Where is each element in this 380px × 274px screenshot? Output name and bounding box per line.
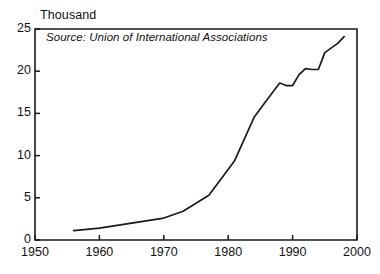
- series-line-international-associations: [74, 37, 344, 231]
- chart-figure: Thousand Source: Union of International …: [0, 0, 380, 274]
- plot-frame: [35, 29, 357, 240]
- y-tick-label: 20: [0, 63, 31, 77]
- line-chart-plot: [0, 0, 380, 274]
- x-tick-label: 1970: [134, 245, 194, 259]
- y-tick-label: 0: [0, 232, 31, 246]
- x-tick-label: 1960: [69, 245, 129, 259]
- x-tick-label: 1950: [5, 245, 65, 259]
- y-tick-label: 25: [0, 21, 31, 35]
- x-tick-label: 1980: [198, 245, 258, 259]
- y-tick-label: 10: [0, 148, 31, 162]
- x-tick-label: 2000: [327, 245, 380, 259]
- y-tick-label: 15: [0, 105, 31, 119]
- y-tick-label: 5: [0, 190, 31, 204]
- data-series-group: [74, 37, 344, 231]
- x-tick-label: 1990: [263, 245, 323, 259]
